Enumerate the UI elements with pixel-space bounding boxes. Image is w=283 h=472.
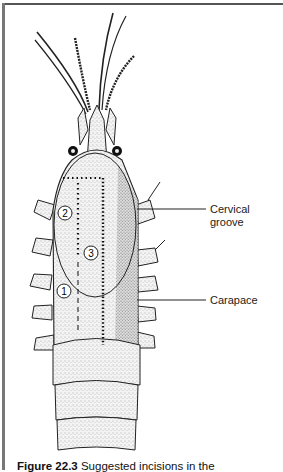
- label-cervical-line2: groove: [210, 216, 244, 228]
- label-cervical-line1: Cervical: [210, 203, 250, 215]
- antennae: [35, 13, 134, 114]
- svg-text:1: 1: [61, 286, 67, 297]
- svg-text:2: 2: [62, 208, 68, 219]
- abdomen: [53, 339, 140, 451]
- svg-text:3: 3: [88, 248, 94, 259]
- caption-number: Figure 22.3: [17, 460, 78, 472]
- caption-text: Suggested incisions in the: [81, 460, 215, 472]
- label-carapace: Carapace: [210, 294, 258, 307]
- marker-2: 2: [58, 206, 72, 220]
- marker-1: 1: [57, 284, 71, 298]
- legs-left: [30, 200, 55, 350]
- legs-right: [136, 182, 165, 348]
- label-cervical-groove: Cervical groove: [210, 203, 250, 229]
- marker-3: 3: [84, 246, 98, 260]
- figure-caption: Figure 22.3 Suggested incisions in the: [17, 460, 215, 472]
